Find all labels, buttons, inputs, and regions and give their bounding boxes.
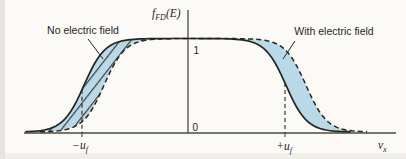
scan-edge-bottom <box>0 153 406 159</box>
no-field-label: No electric field <box>47 24 119 36</box>
figure-page: No electric field With electric field fF… <box>0 0 406 159</box>
fermi-distribution-figure: No electric field With electric field fF… <box>0 0 406 159</box>
y-tick-1-label: 1 <box>194 45 200 56</box>
scan-edge-left <box>0 0 5 159</box>
y-tick-0-label: 0 <box>193 122 199 133</box>
with-field-label: With electric field <box>294 25 374 37</box>
